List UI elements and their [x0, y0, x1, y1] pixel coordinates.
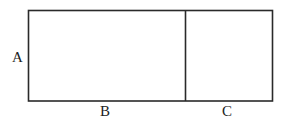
label-c: C	[222, 103, 232, 119]
label-b: B	[100, 103, 110, 119]
label-a: A	[12, 49, 23, 65]
rectangle-diagram: A B C	[0, 0, 285, 120]
outer-rectangle	[29, 11, 273, 102]
